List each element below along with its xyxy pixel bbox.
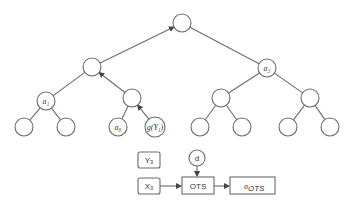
tree-node-label: a₁ [43, 97, 50, 106]
tree-edge [293, 105, 304, 120]
tree-node-label: g(Y₁) [147, 123, 164, 132]
diagram-canvas: a₂a₁a₀g(Y₁) Y₃ X₃ d OTS σOTS [0, 0, 347, 206]
tree-node [279, 118, 297, 136]
tree-edge [229, 73, 260, 93]
tree-nodes: a₂a₁a₀g(Y₁) [15, 14, 339, 137]
tree-edge [205, 105, 215, 119]
d-label: d [195, 154, 199, 163]
tree-edge [53, 72, 85, 95]
tree-node-label: a₀ [115, 123, 122, 132]
flow-diagram: Y₃ X₃ d OTS σOTS [138, 150, 275, 194]
tree-edge [51, 108, 60, 120]
tree-node [57, 118, 75, 136]
tree-edge [100, 27, 174, 63]
tree-edge [138, 105, 150, 120]
tree-node [301, 89, 319, 107]
tree-edge [226, 105, 236, 119]
tree-edge [190, 27, 259, 64]
sigma-ots-label: σOTS [244, 182, 265, 193]
tree-edges [30, 27, 325, 120]
y3-label: Y₃ [145, 156, 154, 165]
tree-node [123, 89, 141, 107]
tree-node [173, 14, 191, 32]
tree-edge [99, 73, 125, 93]
tree-node [83, 58, 101, 76]
tree-node [191, 118, 209, 136]
tree-node [15, 118, 33, 136]
tree-node [233, 118, 251, 136]
tree-node-label: a₂ [264, 64, 271, 73]
x3-label: X₃ [145, 182, 154, 191]
tree-edge [315, 105, 325, 119]
tree-edge [122, 106, 128, 119]
ots-label: OTS [190, 182, 206, 191]
tree-edge [30, 108, 40, 120]
tree-node [212, 89, 230, 107]
tree-edge [274, 73, 302, 93]
tree-node [321, 118, 339, 136]
